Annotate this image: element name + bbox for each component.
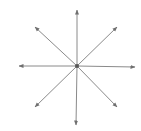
ray-arrow-down-right bbox=[77, 66, 117, 107]
ray-arrow-right bbox=[77, 66, 135, 67]
ray-arrow-up-left bbox=[35, 27, 77, 66]
ray-arrow-down bbox=[76, 66, 77, 125]
center-point bbox=[75, 64, 79, 68]
ray-arrow-down-left bbox=[35, 66, 77, 107]
rays-diagram bbox=[0, 0, 141, 131]
ray-arrow-up-right bbox=[77, 27, 117, 66]
